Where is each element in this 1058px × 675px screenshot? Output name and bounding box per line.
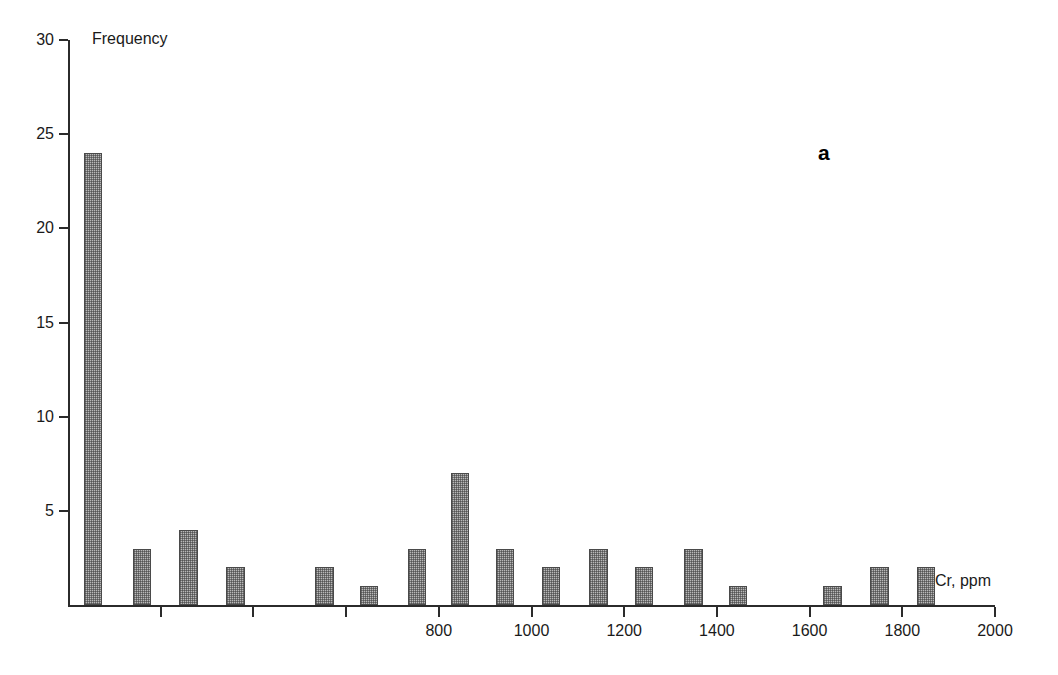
bar (360, 586, 379, 605)
bar (226, 567, 245, 605)
bar (635, 567, 654, 605)
bar (729, 586, 748, 605)
bar-series (0, 0, 1058, 675)
bar (870, 567, 889, 605)
bar (408, 549, 427, 606)
bar (179, 530, 198, 605)
bar (451, 473, 470, 605)
bar (917, 567, 936, 605)
bar (589, 549, 608, 606)
bar (133, 549, 152, 606)
bar (684, 549, 703, 606)
panel-label: a (818, 142, 830, 164)
bar (315, 567, 334, 605)
bar (496, 549, 515, 606)
histogram-figure: 51015202530 Frequency 800100012001400160… (0, 0, 1058, 675)
bar (542, 567, 561, 605)
bar (84, 153, 103, 605)
bar (823, 586, 842, 605)
